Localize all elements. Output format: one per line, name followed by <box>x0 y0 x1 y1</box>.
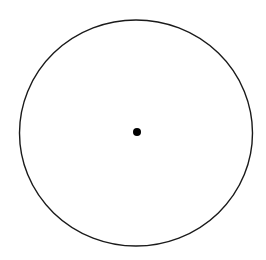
center-point <box>133 128 141 136</box>
background <box>0 0 266 260</box>
diagram-canvas <box>0 0 266 260</box>
